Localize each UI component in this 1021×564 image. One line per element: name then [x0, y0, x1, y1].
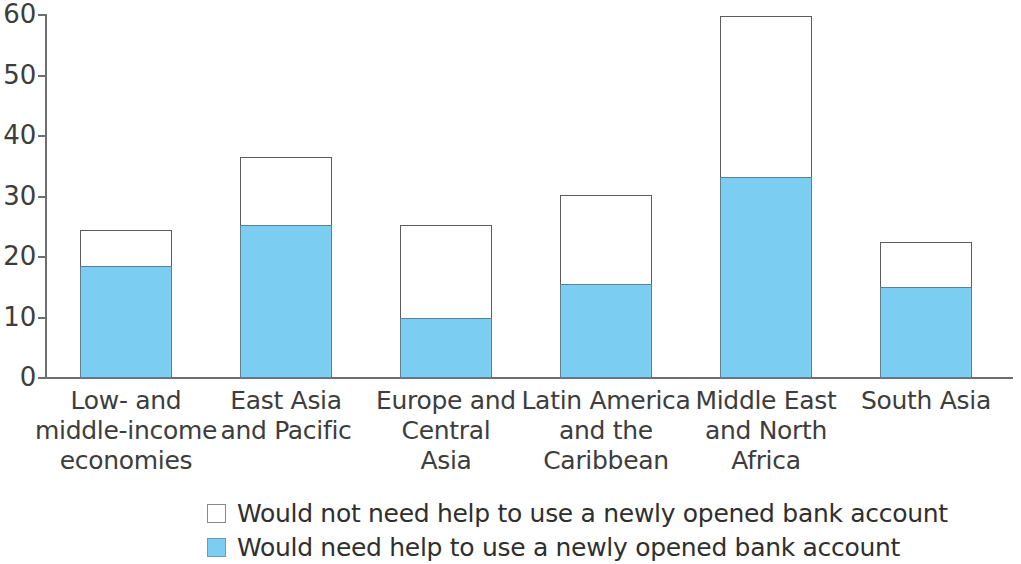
y-axis-tick-label: 10	[0, 304, 36, 330]
bar-segment-would-need-help[interactable]	[560, 284, 652, 378]
y-axis-tick	[38, 377, 47, 379]
y-axis-tick	[38, 256, 47, 258]
y-axis-tick	[38, 317, 47, 319]
bar-segment-would-need-help[interactable]	[80, 266, 172, 378]
bar-segment-would-need-help[interactable]	[240, 225, 332, 378]
bar-group[interactable]	[880, 0, 972, 378]
x-axis-category-label-line: and North	[671, 416, 861, 446]
bar-group[interactable]	[720, 0, 812, 378]
bar-segment-would-need-help[interactable]	[880, 287, 972, 378]
bar-group[interactable]	[80, 0, 172, 378]
x-axis-category-label-line: South Asia	[831, 386, 1021, 416]
legend-swatch	[207, 504, 226, 523]
y-axis-tick-label: 60	[0, 1, 36, 27]
legend-label: Would not need help to use a newly opene…	[237, 500, 948, 527]
y-axis-tick	[38, 75, 47, 77]
x-axis-category-label-line: economies	[31, 446, 221, 476]
bar-segment-would-not-need-help[interactable]	[400, 225, 492, 320]
y-axis-tick	[38, 14, 47, 16]
legend-item[interactable]: Would not need help to use a newly opene…	[207, 497, 948, 529]
bar-group[interactable]	[400, 0, 492, 378]
y-axis-tick-label: 30	[0, 183, 36, 209]
x-axis-category-label: South Asia	[831, 386, 1021, 416]
legend-swatch	[207, 538, 226, 557]
y-axis-tick	[38, 135, 47, 137]
bar-group[interactable]	[560, 0, 652, 378]
y-axis-tick-label: 20	[0, 243, 36, 269]
bar-segment-would-not-need-help[interactable]	[880, 242, 972, 288]
chart-legend: Would not need help to use a newly opene…	[207, 497, 948, 564]
legend-item[interactable]: Would need help to use a newly opened ba…	[207, 531, 948, 563]
bar-segment-would-not-need-help[interactable]	[720, 16, 812, 179]
bar-segment-would-not-need-help[interactable]	[240, 157, 332, 226]
y-axis-tick-label: 40	[0, 122, 36, 148]
bar-group[interactable]	[240, 0, 332, 378]
y-axis-tick-label: 50	[0, 62, 36, 88]
bar-segment-would-need-help[interactable]	[720, 177, 812, 378]
legend-label: Would need help to use a newly opened ba…	[237, 534, 900, 561]
bar-segment-would-not-need-help[interactable]	[80, 230, 172, 268]
y-axis-tick	[38, 196, 47, 198]
stacked-bar-chart: 6050403020100 Low- andmiddle-incomeecono…	[0, 0, 1021, 564]
x-axis-baseline	[45, 377, 1013, 379]
bar-segment-would-not-need-help[interactable]	[560, 195, 652, 286]
bar-segment-would-need-help[interactable]	[400, 318, 492, 378]
x-axis-category-label-line: Africa	[671, 446, 861, 476]
